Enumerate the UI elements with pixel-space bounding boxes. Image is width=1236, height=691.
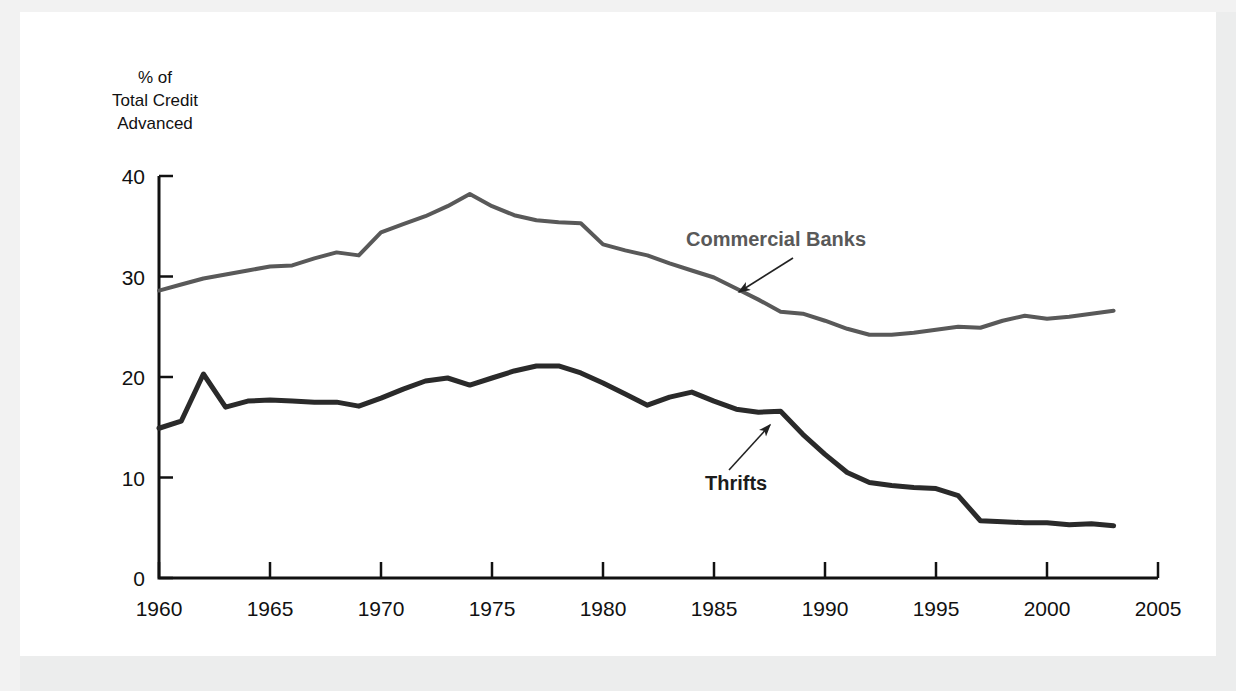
x-tick-label: 1960 [136,597,183,620]
data-series [159,194,1114,526]
x-tick-label: 2005 [1135,597,1182,620]
x-tick-marks [159,562,1158,578]
series-label-commercial-banks: Commercial Banks [686,228,866,250]
y-tick-label: 20 [122,366,145,389]
x-tick-label: 2000 [1024,597,1071,620]
series-line-thrifts [159,366,1114,526]
y-tick-label: 10 [122,467,145,490]
y-tick-label: 30 [122,266,145,289]
x-tick-label: 1965 [247,597,294,620]
y-tick-marks [159,176,173,578]
x-tick-label: 1975 [469,597,516,620]
axes [159,176,1158,578]
series-annotations: Commercial BanksThrifts [686,228,866,494]
y-tick-label: 0 [133,567,145,590]
x-tick-label: 1970 [358,597,405,620]
y-axis-title-line-3: Advanced [117,114,193,133]
series-line-commercial-banks [159,194,1114,335]
annotation-arrow-commercial-banks [739,258,793,292]
x-tick-label: 1995 [913,597,960,620]
annotation-arrow-thrifts [729,425,770,470]
x-tick-label: 1990 [802,597,849,620]
series-label-thrifts: Thrifts [705,472,767,494]
x-tick-labels: 1960196519701975198019851990199520002005 [136,597,1182,620]
y-tick-label: 40 [122,165,145,188]
line-chart: 010203040 196019651970197519801985199019… [0,0,1236,691]
y-axis-title-line-2: Total Credit [112,91,198,110]
x-tick-label: 1985 [691,597,738,620]
y-tick-labels: 010203040 [122,165,145,590]
y-axis-title: % of Total Credit Advanced [112,68,198,133]
y-axis-title-line-1: % of [138,68,172,87]
figure-container: 010203040 196019651970197519801985199019… [0,0,1236,691]
axis-lines [159,176,1158,578]
x-tick-label: 1980 [580,597,627,620]
